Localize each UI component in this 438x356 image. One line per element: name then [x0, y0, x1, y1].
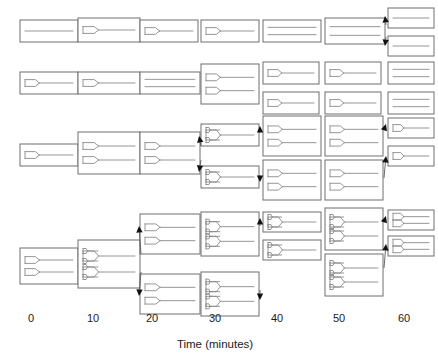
- cell-box: [140, 214, 200, 254]
- cell-box: [325, 18, 385, 44]
- cell-box: [325, 62, 381, 84]
- cell-box: [20, 144, 78, 166]
- cell-box: [388, 92, 434, 114]
- cell-box: [20, 20, 78, 42]
- replication-lineage-figure: 0102030405060 Time (minutes): [0, 0, 438, 356]
- cell-outline: [78, 240, 140, 288]
- arrow-shaft: [384, 162, 385, 178]
- cell-box: [263, 92, 319, 114]
- axis-tick-label: 60: [398, 312, 410, 324]
- cell-outline: [263, 116, 321, 156]
- axis-tick-label: 30: [209, 312, 221, 324]
- cell-box: [388, 236, 434, 256]
- cell-outline: [388, 62, 434, 84]
- cell-outline: [325, 116, 383, 156]
- cell-box: [201, 20, 259, 42]
- cell-box: [388, 62, 434, 84]
- cell-outline: [78, 132, 140, 174]
- cell-outline: [201, 212, 259, 256]
- cell-box: [201, 166, 259, 188]
- cell-box: [78, 240, 140, 288]
- cell-box: [140, 274, 200, 314]
- axis-tick-label: 40: [271, 312, 283, 324]
- cell-box: [263, 160, 321, 200]
- cell-outline: [325, 208, 383, 250]
- cell-box: [201, 272, 259, 316]
- cell-box: [388, 146, 434, 166]
- cell-outline: [263, 160, 321, 200]
- arrow-shaft: [384, 250, 385, 268]
- cell-box: [325, 160, 383, 200]
- cell-box: [20, 248, 78, 284]
- cell-box: [325, 208, 383, 250]
- cell-outline: [140, 72, 200, 94]
- figure-canvas: 0102030405060 Time (minutes): [0, 0, 438, 356]
- cell-box: [78, 18, 140, 42]
- cell-outline: [325, 254, 383, 296]
- cell-outline: [20, 248, 78, 284]
- time-axis: 0102030405060 Time (minutes): [28, 312, 410, 350]
- cell-box: [201, 124, 259, 146]
- cell-outline: [388, 92, 434, 114]
- cell-box: [263, 20, 321, 42]
- cell-outline: [140, 132, 200, 174]
- cell-box: [140, 72, 200, 94]
- axis-tick-label: 20: [146, 312, 158, 324]
- cell-outline: [325, 18, 385, 44]
- axis-tick-labels: 0102030405060: [28, 312, 410, 324]
- cell-box: [388, 8, 434, 28]
- cell-outline: [325, 160, 383, 200]
- cell-box: [201, 212, 259, 256]
- cell-box: [325, 116, 383, 156]
- cell-box: [263, 240, 321, 260]
- cell-box: [325, 254, 383, 296]
- cell-outline: [263, 20, 321, 42]
- cell-outline: [201, 272, 259, 316]
- axis-title: Time (minutes): [177, 338, 253, 350]
- cells-layer: [20, 8, 434, 316]
- cell-box: [140, 20, 198, 42]
- axis-tick-label: 50: [333, 312, 345, 324]
- cell-box: [388, 210, 434, 230]
- axis-tick-label: 10: [87, 312, 99, 324]
- cell-outline: [201, 64, 259, 104]
- cell-box: [201, 64, 259, 104]
- cell-box: [263, 212, 321, 232]
- cell-outline: [140, 274, 200, 314]
- cell-outline: [140, 214, 200, 254]
- cell-box: [388, 36, 434, 56]
- cell-box: [78, 72, 140, 94]
- cell-box: [388, 118, 434, 138]
- cell-box: [263, 116, 321, 156]
- cell-box: [325, 92, 381, 114]
- cell-box: [20, 72, 78, 94]
- cell-box: [78, 132, 140, 174]
- axis-tick-label: 0: [28, 312, 34, 324]
- cell-box: [263, 62, 319, 84]
- cell-box: [140, 132, 200, 174]
